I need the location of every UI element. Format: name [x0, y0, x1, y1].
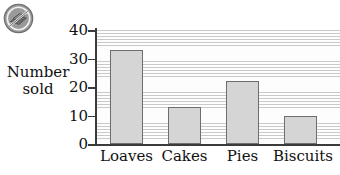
y-tick-label-30: 30 [48, 52, 88, 67]
y-tick-label-10: 10 [48, 109, 88, 124]
y-tick-label-0: 0 [48, 137, 88, 152]
y-tick-mark-20 [88, 87, 96, 89]
bar-loaves[interactable] [110, 50, 143, 144]
y-tick-mark-10 [88, 116, 96, 118]
x-tick-label-cakes: Cakes [152, 148, 217, 165]
x-axis-line [88, 144, 340, 146]
bar-biscuits[interactable] [284, 116, 317, 145]
x-tick-label-loaves: Loaves [94, 148, 159, 165]
no-copy-prohibition-icon [3, 3, 34, 34]
y-tick-mark-30 [88, 59, 96, 61]
y-tick-label-40: 40 [48, 23, 88, 38]
x-tick-label-pies: Pies [210, 148, 275, 165]
y-tick-mark-0 [88, 144, 96, 146]
y-tick-label-20: 20 [48, 80, 88, 95]
y-tick-mark-40 [88, 30, 96, 32]
bar-cakes[interactable] [168, 107, 201, 144]
bar-chart: 0 10 20 30 40 Loaves Cakes Pies Biscuits [60, 22, 340, 152]
x-tick-label-biscuits: Biscuits [268, 148, 338, 165]
bar-pies[interactable] [226, 81, 259, 144]
